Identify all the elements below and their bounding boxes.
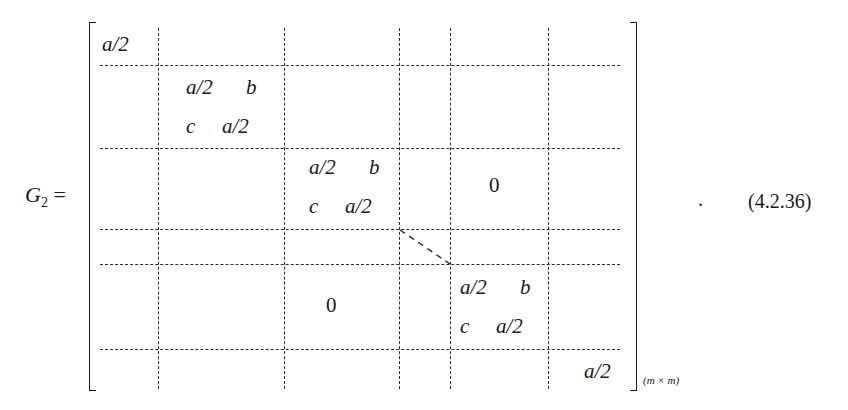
left-bracket [89,22,96,391]
equation-number: (4.2.36) [748,190,811,213]
block-r3c3-entry-22: a/2 [345,196,372,217]
partition-line-h5 [100,349,620,350]
matrix-symbol: G [25,182,41,207]
block-r5c5-entry-21: c [460,316,469,337]
equals-sign: = [53,182,65,207]
block-r2c2-entry-11: a/2 [186,77,213,98]
partition-line-h2 [100,148,620,149]
partition-line-h3 [100,229,620,230]
block-r3c3-entry-21: c [309,196,318,217]
upper-right-zero-block: 0 [489,175,500,196]
partition-line-v5 [548,28,549,389]
equation-lhs: G2 = [25,182,66,211]
block-r1c1-entry: a/2 [102,34,129,55]
block-r2c2-entry-12: b [246,77,257,98]
block-r5c5-entry-12: b [520,277,531,298]
right-bracket [630,22,637,391]
partition-line-h4 [100,264,620,265]
partition-line-v1 [158,28,159,389]
equation-terminator: . [698,188,703,211]
block-r3c3-entry-12: b [369,157,380,178]
block-r3c3-entry-11: a/2 [309,157,336,178]
block-r2c2-entry-22: a/2 [222,116,249,137]
block-r6c6-entry: a/2 [584,361,611,382]
block-r2c2-entry-21: c [186,116,195,137]
partition-line-v2 [284,28,285,389]
partition-line-h1 [100,65,620,66]
partition-line-v4 [450,28,451,389]
block-r5c5-entry-11: a/2 [460,277,487,298]
diagonal-ellipsis [395,225,455,270]
lower-left-zero-block: 0 [326,295,337,316]
matrix-subscript: 2 [41,195,48,210]
matrix-dimension-label: (m × m) [643,374,679,386]
partition-line-v3 [399,28,400,389]
block-r5c5-entry-22: a/2 [496,316,523,337]
